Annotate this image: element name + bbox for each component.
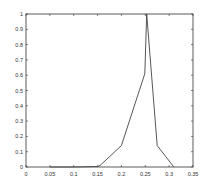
y-tick-label: 0.2 [15,133,23,139]
x-tick-label: 0 [24,171,27,177]
x-tick-label: 0.3 [165,171,173,177]
x-tick-label: 0.15 [92,171,103,177]
y-tick-label: 0.5 [15,88,23,94]
y-tick-label: 0.9 [15,26,23,32]
line-chart: 00.10.20.30.40.50.60.70.80.91 00.050.10.… [0,0,206,183]
x-tick-label: 0.05 [44,171,55,177]
data-series [50,14,174,167]
x-tick-label: 0.35 [188,171,199,177]
x-axis-ticks: 00.050.10.150.20.250.30.35 [24,14,198,177]
axes-box [26,14,193,167]
y-tick-label: 0.8 [15,42,23,48]
y-tick-label: 0.3 [15,118,23,124]
y-axis-ticks: 00.10.20.30.40.50.60.70.80.91 [15,11,193,170]
plot-frame [26,14,193,167]
y-tick-label: 0.6 [15,72,23,78]
x-tick-label: 0.1 [70,171,78,177]
y-tick-label: 0.7 [15,57,23,63]
x-tick-label: 0.25 [140,171,151,177]
y-tick-label: 0.4 [15,103,23,109]
y-tick-label: 0 [20,164,23,170]
x-tick-label: 0.2 [118,171,126,177]
y-tick-label: 0.1 [15,149,23,155]
series-line [50,14,174,167]
y-tick-label: 1 [20,11,23,17]
